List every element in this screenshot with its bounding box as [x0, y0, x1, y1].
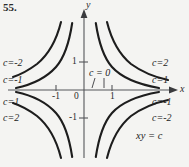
y-tick-label-neg1: -1: [69, 113, 77, 123]
c-zero-leader-left: [92, 78, 95, 88]
label-right-lower-cneg2: c=-2: [152, 113, 172, 123]
origin-label: 0: [74, 92, 79, 102]
c-zero-leader-lines: [92, 78, 104, 88]
label-left-upper-cneg1: c=-1: [3, 75, 23, 85]
curve-cneg1-q4: [96, 92, 159, 157]
equation-label: xy = c: [136, 131, 162, 142]
label-right-lower-cneg1: c=-1: [152, 97, 172, 107]
label-left-lower-c2: c=2: [3, 113, 19, 123]
y-tick-label-pos1: 1: [72, 57, 77, 67]
label-c-zero: c = 0: [89, 68, 110, 78]
label-right-upper-c2: c=2: [152, 58, 168, 68]
y-axis-arrowhead: [81, 9, 88, 18]
label-left-upper-cneg2: c=-2: [3, 58, 23, 68]
label-left-lower-c1: c=1: [3, 97, 19, 107]
curves-quadrant-3: [13, 92, 72, 158]
label-right-upper-c1: c=1: [152, 75, 168, 85]
x-tick-label-pos1: 1: [110, 92, 115, 102]
x-axis-label: x: [180, 84, 184, 94]
x-axis-arrowhead: [169, 87, 178, 94]
curve-c1-q1: [96, 23, 159, 88]
x-tick-label-neg1: -1: [52, 92, 60, 102]
y-axis-label: y: [86, 0, 90, 10]
level-curve-figure: 55.: [0, 0, 189, 167]
